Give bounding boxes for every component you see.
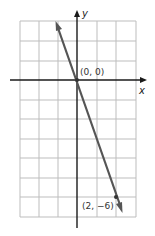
x-axis-arrow-icon — [140, 77, 147, 83]
origin-label: (0, 0) — [80, 67, 104, 77]
coordinate-plane: y x (0, 0) (2, −6) — [0, 0, 155, 236]
line-arrow-bottom-icon — [116, 202, 123, 213]
y-axis-arrow-icon — [74, 10, 80, 17]
x-axis-label: x — [138, 85, 145, 96]
origin-point — [75, 78, 79, 82]
point-label: (2, −6) — [82, 201, 114, 211]
y-axis-label: y — [81, 8, 89, 19]
point-2-neg6 — [114, 195, 118, 199]
line-arrow-top-icon — [56, 21, 63, 31]
grid — [20, 21, 136, 217]
